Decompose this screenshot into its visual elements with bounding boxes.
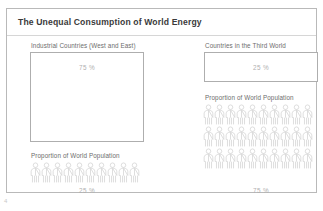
- right-energy-label: Countries in the Third World: [205, 42, 286, 49]
- person-icon: [302, 104, 313, 125]
- right-population-label: Proportion of World Population: [205, 94, 294, 101]
- person-icon: [236, 104, 247, 125]
- person-icon: [269, 148, 280, 169]
- person-icon: [30, 162, 41, 183]
- left-energy-percent: 75 %: [31, 64, 143, 71]
- person-icon: [258, 104, 269, 125]
- right-population-figure-row: [203, 148, 313, 169]
- person-icon: [302, 148, 313, 169]
- page-title: The Unequal Consumption of World Energy: [18, 17, 202, 27]
- person-icon: [214, 126, 225, 147]
- person-icon: [52, 162, 63, 183]
- slide-frame: The Unequal Consumption of World Energy …: [6, 8, 317, 193]
- person-icon: [291, 126, 302, 147]
- person-icon: [214, 104, 225, 125]
- person-icon: [203, 148, 214, 169]
- left-energy-box: 75 %: [30, 52, 144, 142]
- person-icon: [214, 148, 225, 169]
- page-number: 4: [4, 198, 7, 204]
- person-icon: [203, 126, 214, 147]
- title-divider: [7, 35, 316, 36]
- person-icon: [269, 126, 280, 147]
- person-icon: [225, 104, 236, 125]
- person-icon: [41, 162, 52, 183]
- person-icon: [291, 104, 302, 125]
- person-icon: [302, 126, 313, 147]
- person-icon: [291, 148, 302, 169]
- person-icon: [258, 126, 269, 147]
- person-icon: [225, 148, 236, 169]
- person-icon: [118, 162, 129, 183]
- right-energy-box: 25 %: [204, 52, 318, 82]
- person-icon: [247, 148, 258, 169]
- person-icon: [225, 126, 236, 147]
- person-icon: [269, 104, 280, 125]
- left-population-figure-row: [30, 162, 140, 183]
- left-population-label: Proportion of World Population: [31, 152, 120, 159]
- person-icon: [107, 162, 118, 183]
- left-energy-label: Industrial Countries (West and East): [31, 42, 136, 49]
- right-population-figure-row: [203, 104, 313, 125]
- right-population-figure-grid: [203, 104, 313, 170]
- person-icon: [74, 162, 85, 183]
- person-icon: [96, 162, 107, 183]
- right-population-percent: 75 %: [204, 187, 318, 194]
- person-icon: [258, 148, 269, 169]
- person-icon: [280, 104, 291, 125]
- person-icon: [236, 148, 247, 169]
- right-energy-percent: 25 %: [205, 64, 317, 71]
- person-icon: [203, 104, 214, 125]
- person-icon: [247, 126, 258, 147]
- person-icon: [280, 126, 291, 147]
- right-population-figure-row: [203, 126, 313, 147]
- person-icon: [280, 148, 291, 169]
- person-icon: [129, 162, 140, 183]
- person-icon: [247, 104, 258, 125]
- person-icon: [236, 126, 247, 147]
- person-icon: [63, 162, 74, 183]
- left-population-percent: 25 %: [30, 187, 144, 194]
- person-icon: [85, 162, 96, 183]
